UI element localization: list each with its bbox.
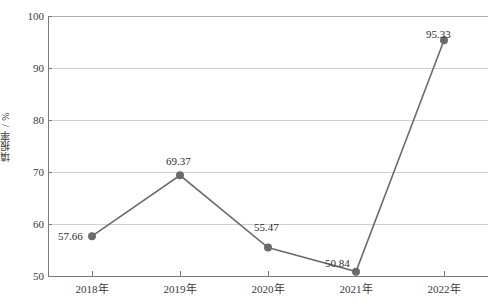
point-label-2020: 55.47 (254, 222, 279, 233)
data-point-2021年 (352, 268, 360, 276)
data-point-2018年 (88, 232, 96, 240)
point-label-2021: 50.84 (325, 258, 350, 269)
data-point-2019年 (176, 171, 184, 179)
point-label-2022: 95.33 (426, 29, 451, 40)
series-layer (0, 0, 499, 306)
data-point-2020年 (264, 244, 272, 252)
line-chart: 填报率 / % 100 90 80 70 60 50 2018年 2019年 2… (0, 0, 499, 306)
point-label-2018: 57.66 (58, 231, 83, 242)
series-markers (88, 36, 448, 275)
series-line (92, 40, 444, 271)
point-label-2019: 69.37 (166, 156, 191, 167)
